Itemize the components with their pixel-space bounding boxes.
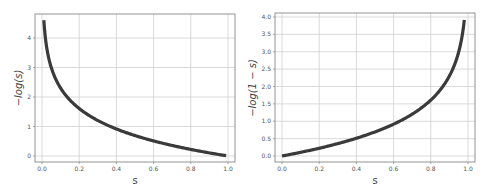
y-tick-label: 3.5 xyxy=(261,30,271,37)
y-tick-label: 2.5 xyxy=(261,65,271,72)
x-tick-label: 1.0 xyxy=(223,165,233,172)
x-tick-label: 0.0 xyxy=(277,165,287,172)
left-chart: 01234 0.00.20.40.60.81.0 s −log(s) xyxy=(13,14,235,186)
y-tick-label: 0.0 xyxy=(261,152,271,159)
left-chart-ylabel: −log(s) xyxy=(13,70,24,107)
left-chart-x-ticks: 0.00.20.40.60.81.0 xyxy=(37,162,233,172)
y-tick-label: 1 xyxy=(27,123,31,130)
left-chart-frame xyxy=(35,14,235,162)
y-tick-label: 3 xyxy=(27,64,31,71)
left-chart-xlabel: s xyxy=(132,175,137,186)
y-tick-label: 1.5 xyxy=(261,100,271,107)
x-tick-label: 0.2 xyxy=(74,165,84,172)
right-chart-grid xyxy=(275,13,475,162)
right-chart-frame xyxy=(275,13,475,162)
right-chart-x-ticks: 0.00.20.40.60.81.0 xyxy=(277,162,473,172)
x-tick-label: 0.6 xyxy=(149,165,159,172)
y-tick-label: 4 xyxy=(27,34,31,41)
x-tick-label: 0.4 xyxy=(352,165,362,172)
x-tick-label: 0.8 xyxy=(186,165,196,172)
figure: 01234 0.00.20.40.60.81.0 s −log(s) 0.00.… xyxy=(0,0,489,189)
x-tick-label: 0.4 xyxy=(112,165,122,172)
x-tick-label: 1.0 xyxy=(463,165,473,172)
x-tick-label: 0.0 xyxy=(37,165,47,172)
y-tick-label: 2.0 xyxy=(261,83,271,90)
left-chart-y-ticks: 01234 xyxy=(27,34,35,159)
y-tick-label: 3.0 xyxy=(261,48,271,55)
y-tick-label: 2 xyxy=(27,93,31,100)
x-tick-label: 0.8 xyxy=(426,165,436,172)
x-tick-label: 0.2 xyxy=(314,165,324,172)
y-tick-label: 4.0 xyxy=(261,13,271,20)
y-tick-label: 0 xyxy=(27,152,31,159)
right-chart-y-ticks: 0.00.51.01.52.02.53.03.54.0 xyxy=(261,13,275,159)
right-chart: 0.00.51.01.52.02.53.03.54.0 0.00.20.40.6… xyxy=(247,13,475,186)
y-tick-label: 0.5 xyxy=(261,135,271,142)
right-chart-xlabel: s xyxy=(372,175,377,186)
right-chart-curve xyxy=(282,20,464,156)
left-chart-curve xyxy=(44,20,226,156)
x-tick-label: 0.6 xyxy=(389,165,399,172)
left-chart-grid xyxy=(35,14,235,162)
right-chart-ylabel: −log(1 − s) xyxy=(247,59,258,117)
y-tick-label: 1.0 xyxy=(261,117,271,124)
